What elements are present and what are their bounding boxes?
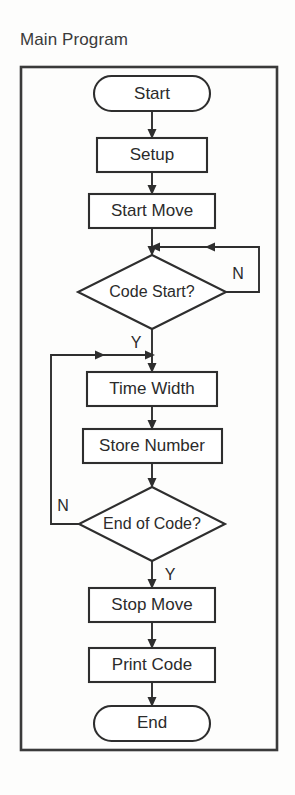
node-start-move[interactable]: Start Move [89, 194, 215, 228]
node-store-number-label: Store Number [99, 436, 205, 455]
node-start-label: Start [134, 84, 170, 103]
branch-label-code-start-no: N [232, 265, 244, 282]
branch-label-end-of-code-no: N [57, 497, 69, 514]
edge-start-move-to-code-start [148, 228, 157, 256]
node-print-code[interactable]: Print Code [89, 648, 215, 682]
flowchart-svg: Start Setup Start Move Code Start? Time … [0, 0, 295, 795]
node-setup[interactable]: Setup [97, 138, 207, 172]
edge-setup-to-start-move [148, 172, 157, 195]
node-end-of-code-label: End of Code? [103, 515, 201, 532]
edge-time-width-to-store-number [148, 406, 157, 430]
node-stop-move[interactable]: Stop Move [89, 588, 215, 622]
branch-label-code-start-yes: Y [131, 334, 142, 351]
node-setup-label: Setup [130, 145, 174, 164]
node-start-move-label: Start Move [111, 201, 193, 220]
node-start[interactable]: Start [94, 76, 210, 111]
node-print-code-label: Print Code [112, 655, 192, 674]
edge-code-start-yes: Y [131, 329, 157, 373]
branch-label-end-of-code-yes: Y [165, 566, 176, 583]
edge-start-to-setup [148, 111, 157, 139]
node-stop-move-label: Stop Move [111, 595, 192, 614]
node-time-width-label: Time Width [109, 379, 194, 398]
node-end[interactable]: End [94, 706, 210, 741]
node-code-start-label: Code Start? [109, 283, 194, 300]
edge-print-code-to-end [148, 682, 157, 707]
edge-end-of-code-yes: Y [148, 561, 176, 589]
node-end-label: End [137, 713, 167, 732]
node-time-width[interactable]: Time Width [87, 372, 217, 406]
node-store-number[interactable]: Store Number [83, 429, 222, 463]
edge-stop-move-to-print-code [148, 622, 157, 649]
node-code-start[interactable]: Code Start? [78, 255, 226, 329]
flowchart-canvas: Main Program Start Setup Start Move Code… [0, 0, 295, 795]
edge-store-number-to-end-of-code [148, 463, 157, 488]
node-end-of-code[interactable]: End of Code? [79, 487, 225, 561]
